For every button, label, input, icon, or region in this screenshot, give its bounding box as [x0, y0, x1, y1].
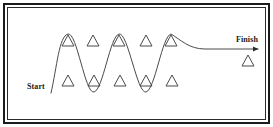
cone-bottom-5 — [166, 75, 178, 86]
cone-finish — [242, 55, 254, 66]
cone-bottom-2 — [88, 75, 100, 86]
cone-bottom-4 — [140, 75, 152, 86]
diagram-canvas — [0, 0, 273, 127]
finish-label: Finish — [236, 36, 258, 44]
cone-top-2 — [87, 35, 99, 46]
cone-bottom-1 — [62, 75, 74, 86]
start-label: Start — [27, 83, 45, 91]
cone-bottom-3 — [114, 75, 126, 86]
weaving-path-line — [51, 34, 258, 93]
cone-top-4 — [140, 35, 152, 46]
cone-markers-group — [62, 35, 254, 86]
slalom-course-figure: Start Finish — [0, 0, 273, 127]
